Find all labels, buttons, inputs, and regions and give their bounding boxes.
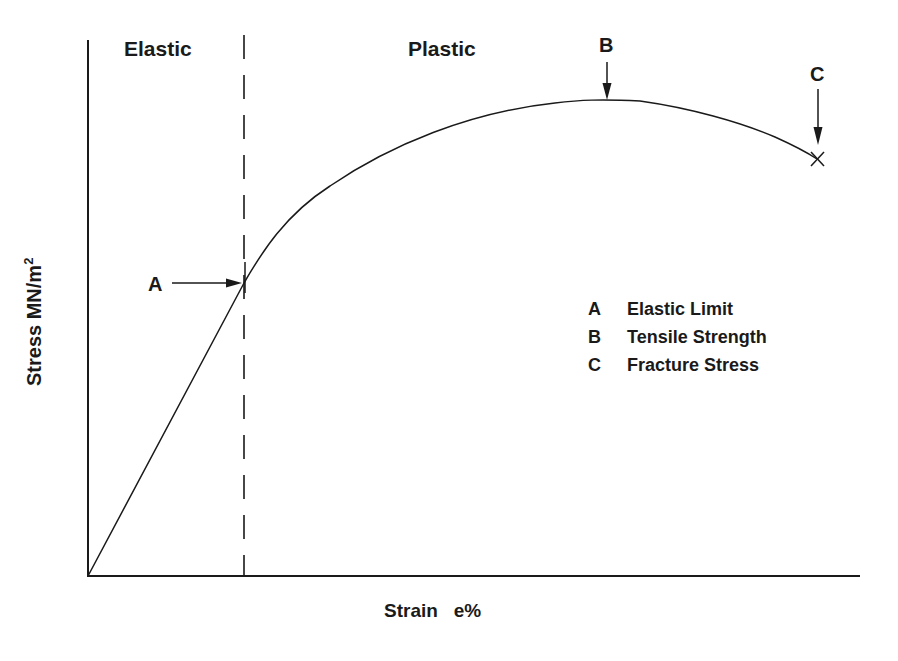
y-axis-label: Stress MN/m2 bbox=[21, 258, 45, 386]
legend-text-c: Fracture Stress bbox=[627, 355, 759, 375]
region-label-plastic: Plastic bbox=[408, 37, 476, 60]
point-b-marker: B bbox=[599, 34, 613, 100]
legend-key-a: A bbox=[588, 299, 601, 319]
y-axis-label-superscript: 2 bbox=[21, 258, 36, 265]
point-a-marker: A bbox=[148, 262, 245, 295]
legend-key-c: C bbox=[588, 355, 601, 375]
point-c-label: C bbox=[810, 63, 824, 85]
arrow-down-icon bbox=[814, 127, 823, 145]
legend-text-a: Elastic Limit bbox=[627, 299, 733, 319]
legend: A Elastic Limit B Tensile Strength C Fra… bbox=[588, 299, 767, 375]
region-label-elastic: Elastic bbox=[124, 37, 192, 60]
arrow-right-icon bbox=[226, 279, 242, 288]
stress-strain-diagram: Elastic Plastic A B C A Elastic Limit B … bbox=[0, 0, 898, 661]
legend-item-c: C Fracture Stress bbox=[588, 355, 759, 375]
point-c-marker: C bbox=[810, 63, 824, 166]
legend-item-b: B Tensile Strength bbox=[588, 327, 767, 347]
y-axis-label-group: Stress MN/m2 bbox=[21, 258, 45, 386]
arrow-down-icon bbox=[603, 83, 612, 100]
legend-text-b: Tensile Strength bbox=[627, 327, 767, 347]
legend-item-a: A Elastic Limit bbox=[588, 299, 733, 319]
legend-key-b: B bbox=[588, 327, 601, 347]
point-b-label: B bbox=[599, 34, 613, 56]
axes bbox=[87, 40, 860, 577]
point-a-label: A bbox=[148, 273, 162, 295]
y-axis-label-text: Stress MN/m bbox=[23, 265, 45, 386]
fracture-cross-icon bbox=[811, 152, 824, 166]
x-axis-label: Strain e% bbox=[384, 600, 481, 621]
